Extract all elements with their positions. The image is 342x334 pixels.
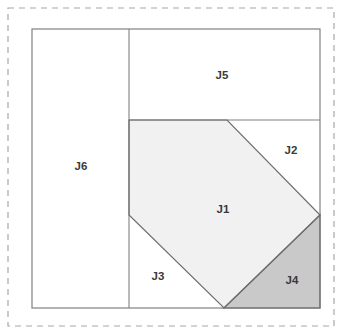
partition-diagram: J1 J2 J3 J4 J5 J6	[0, 0, 342, 334]
region-label-J5: J5	[215, 69, 229, 81]
region-label-J1: J1	[216, 203, 230, 215]
region-label-J4: J4	[285, 274, 299, 286]
region-label-J6: J6	[74, 160, 87, 172]
geometry-figure: J1 J2 J3 J4 J5 J6	[0, 0, 342, 334]
region-label-J2: J2	[284, 144, 297, 156]
region-label-J3: J3	[151, 270, 164, 282]
